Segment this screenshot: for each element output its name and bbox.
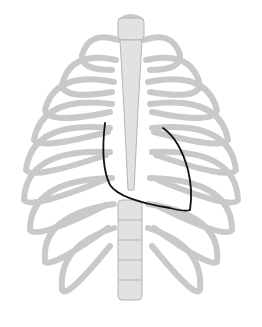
rib-cage-illustration (0, 0, 262, 327)
sternum-and-spine (118, 18, 144, 300)
